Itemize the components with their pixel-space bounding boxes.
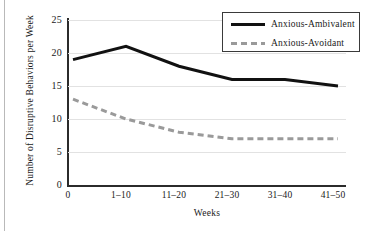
x-axis-title: Weeks xyxy=(68,208,346,219)
x-tick-label-41-50: 41–50 xyxy=(305,190,361,200)
series-line-anxious-avoidant xyxy=(73,99,338,139)
x-tick-label-0: 0 xyxy=(40,190,96,200)
x-tick-label-21-30: 21–30 xyxy=(199,190,255,200)
legend-entry-anxious-ambivalent: Anxious-Ambivalent xyxy=(223,14,359,34)
legend-label-anxious-ambivalent: Anxious-Ambivalent xyxy=(271,19,355,30)
legend-entry-anxious-avoidant: Anxious-Avoidant xyxy=(223,33,359,53)
legend-label-anxious-avoidant: Anxious-Avoidant xyxy=(271,38,344,49)
x-tick-label-1-10: 1–10 xyxy=(93,190,149,200)
legend-dashed-line-icon xyxy=(231,38,265,48)
y-axis-title: Number of Disruptive Behaviors per Week xyxy=(25,11,36,191)
x-axis-line xyxy=(67,185,346,187)
legend-solid-line-icon xyxy=(231,19,265,29)
x-tick-label-11-20: 11–20 xyxy=(146,190,202,200)
chart-legend: Anxious-Ambivalent Anxious-Avoidant xyxy=(222,12,360,52)
page-edge-rule xyxy=(4,0,5,231)
x-tick-label-31-40: 31–40 xyxy=(252,190,308,200)
chart-figure: 25 20 15 10 5 0 0 1–10 11–20 21–30 31–40… xyxy=(0,0,376,231)
